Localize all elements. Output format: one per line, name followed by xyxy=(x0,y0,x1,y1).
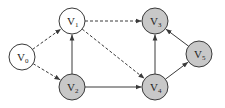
directed-graph-diagram: V0V1V2V3V4V5 xyxy=(0,0,225,108)
nodes-layer: V0V1V2V3V4V5 xyxy=(9,8,212,100)
node-v4: V4 xyxy=(142,74,168,100)
node-v1: V1 xyxy=(59,8,85,34)
edge-v0-to-v2 xyxy=(33,64,60,80)
edge-v1-to-v4 xyxy=(82,29,144,79)
edge-v4-to-v5 xyxy=(165,62,188,79)
edge-v5-to-v3 xyxy=(166,29,189,46)
node-v2: V2 xyxy=(59,74,85,100)
node-v5: V5 xyxy=(186,41,212,67)
edges-layer xyxy=(33,21,189,87)
node-v3: V3 xyxy=(142,8,168,34)
node-v0: V0 xyxy=(9,44,35,70)
edge-v0-to-v1 xyxy=(33,29,61,50)
